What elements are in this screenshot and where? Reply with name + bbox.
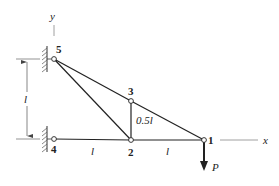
x-axis-label: x [262,134,268,146]
wall-support-5 [42,46,51,72]
y-axis: y [49,10,55,36]
dimension-vertical: l [16,59,40,139]
load-label: P [211,161,219,173]
dimension-label-4-2: l [91,145,94,157]
node-label-4: 4 [51,143,57,155]
node-4 [52,137,57,142]
dimension-label-vertical: l [24,93,27,105]
truss-diagram: y x l [0,0,279,186]
node-label-2: 2 [128,146,134,158]
member-5-3 [54,59,131,101]
node-label-5: 5 [56,43,62,55]
y-axis-label: y [49,10,55,22]
node-label-3: 3 [128,85,134,97]
load-arrow-p: P [200,142,219,173]
node-1 [202,138,207,143]
x-axis: x [220,134,268,146]
member-5-2 [54,59,131,140]
truss-svg: y x l [0,0,279,186]
node-2 [129,138,134,143]
wall-support-4 [42,126,51,152]
node-label-1: 1 [208,134,214,146]
node-3 [129,99,134,104]
dimension-label-2-3: 0.5l [136,114,153,126]
node-5 [52,57,57,62]
member-4-2 [54,139,131,140]
dimension-label-2-1: l [166,145,169,157]
